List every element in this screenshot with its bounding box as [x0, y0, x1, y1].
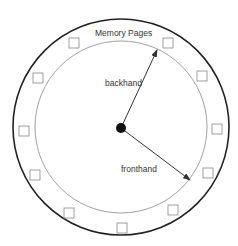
backhand-arrow — [121, 50, 157, 128]
clock-diagram: Memory Pages backhand fronthand — [0, 0, 238, 246]
page-box — [197, 71, 207, 81]
page-box — [69, 38, 79, 48]
memory-pages-title: Memory Pages — [95, 28, 152, 38]
backhand-label: backhand — [105, 78, 142, 88]
page-box — [212, 124, 222, 134]
fronthand-label: fronthand — [121, 164, 157, 174]
page-box — [64, 208, 74, 218]
page-box — [163, 38, 173, 48]
page-box — [30, 170, 40, 180]
page-box — [203, 168, 213, 178]
page-box — [117, 223, 127, 233]
memory-pages — [19, 38, 222, 233]
page-box — [19, 126, 29, 136]
hub-dot — [116, 123, 126, 133]
page-box — [33, 73, 43, 83]
page-box — [168, 205, 178, 215]
